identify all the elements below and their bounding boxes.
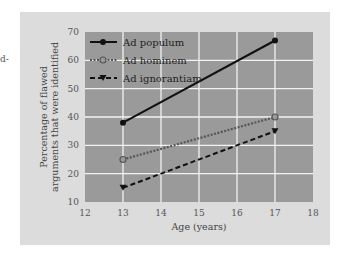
chart-panel: Ad populumAd hominemAd ignorantiam 10203…: [20, 12, 330, 245]
y-tick-label: 20: [68, 169, 80, 179]
x-tick-label: 13: [117, 208, 129, 218]
y-tick-label: 40: [68, 112, 80, 122]
x-tick-label: 17: [269, 208, 281, 218]
cropped-text-fragment: d-: [0, 54, 9, 64]
filled-circle-marker-icon: [100, 39, 106, 45]
y-tick-label: 70: [68, 27, 80, 37]
y-tick-label: 30: [68, 140, 80, 150]
y-tick-label: 50: [68, 84, 80, 94]
x-tick-label: 18: [307, 208, 319, 218]
open-circle-marker-icon: [120, 157, 126, 163]
y-tick-label: 10: [68, 197, 80, 207]
open-circle-marker-icon: [100, 57, 106, 63]
x-tick-label: 12: [79, 208, 90, 218]
open-circle-marker-icon: [272, 114, 278, 120]
y-tick-label: 60: [68, 55, 80, 65]
legend-label: Ad ignorantiam: [122, 73, 202, 84]
y-axis-label: arguments that were identified: [49, 42, 60, 192]
x-tick-label: 16: [231, 208, 243, 218]
filled-circle-marker-icon: [120, 120, 126, 126]
x-axis-label: Age (years): [170, 221, 226, 232]
filled-circle-marker-icon: [272, 38, 278, 44]
line-chart: Ad populumAd hominemAd ignorantiam 10203…: [20, 12, 330, 245]
legend-label: Ad populum: [122, 37, 185, 48]
x-tick-label: 14: [155, 208, 167, 218]
x-tick-label: 15: [193, 208, 205, 218]
legend-label: Ad hominem: [122, 55, 187, 66]
y-axis-label: Percentage of flawed: [38, 66, 49, 168]
